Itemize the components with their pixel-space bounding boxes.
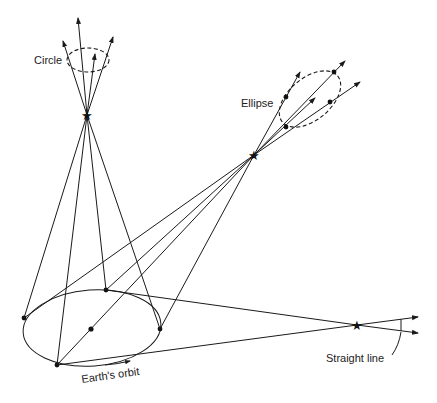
star-icon: ★ bbox=[351, 318, 363, 333]
orbit-direction-arrow bbox=[105, 361, 130, 365]
ellipse-star-group: ★ Ellipse bbox=[24, 60, 360, 365]
circle-label: Circle bbox=[34, 54, 62, 66]
star-icon: ★ bbox=[81, 108, 93, 123]
stellar-aberration-diagram: ★ Circle ★ Ellipse ★ Straight line Earth… bbox=[0, 0, 437, 403]
earths-orbit-label: Earth's orbit bbox=[81, 365, 140, 385]
circle-star-group: ★ Circle bbox=[24, 18, 160, 365]
star-icon: ★ bbox=[248, 148, 260, 163]
straight-line-star-group: ★ Straight line bbox=[57, 290, 418, 365]
ellipse-label: Ellipse bbox=[241, 97, 273, 109]
straight-line-label: Straight line bbox=[326, 352, 384, 364]
